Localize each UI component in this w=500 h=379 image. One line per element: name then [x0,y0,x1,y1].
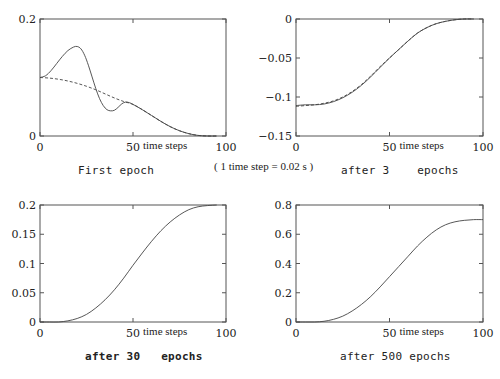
y-tick-label: 0.2 [275,287,293,300]
chart-after-500-epochs: 00.20.40.60.8050100time steps [0,0,500,379]
y-tick-label: 0 [285,316,292,329]
y-tick-label: 0.4 [275,258,293,271]
x-axis-label: time steps [400,325,444,337]
axes-frame [296,205,483,322]
x-tick-label: 100 [473,327,494,340]
x-tick-label: 0 [293,327,300,340]
series-output-line [296,220,483,322]
y-tick-label: 0.6 [275,228,293,241]
caption-after-500-epochs: after 500 epochs [340,350,451,363]
y-tick-label: 0.8 [275,199,293,212]
x-tick-label: 50 [383,327,397,340]
subplot-after-500-epochs: 00.20.40.60.8050100time steps after 500 … [0,0,500,379]
